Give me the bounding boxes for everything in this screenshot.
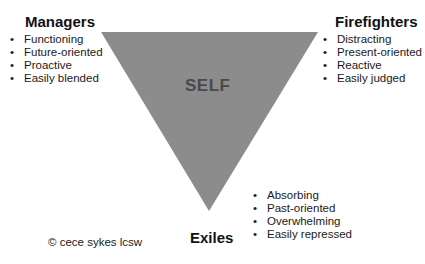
list-item: •Overwhelming xyxy=(253,215,352,228)
list-item: •Future-oriented xyxy=(10,46,103,59)
bullet-icon: • xyxy=(10,72,24,85)
bullet-icon: • xyxy=(323,46,337,59)
bullet-icon: • xyxy=(10,33,24,46)
copyright-text: © cece sykes lcsw xyxy=(48,236,142,248)
exiles-list: •Absorbing •Past-oriented •Overwhelming … xyxy=(253,189,352,241)
list-item: •Distracting xyxy=(323,33,422,46)
bullet-icon: • xyxy=(253,202,267,215)
bullet-icon: • xyxy=(323,59,337,72)
list-item: •Present-oriented xyxy=(323,46,422,59)
managers-list: •Functioning •Future-oriented •Proactive… xyxy=(10,33,103,85)
exiles-title: Exiles xyxy=(190,229,233,246)
list-item: •Easily judged xyxy=(323,72,422,85)
managers-title: Managers xyxy=(25,13,103,30)
list-item: •Easily repressed xyxy=(253,228,352,241)
bullet-icon: • xyxy=(10,46,24,59)
list-item: •Reactive xyxy=(323,59,422,72)
list-item: •Easily blended xyxy=(10,72,103,85)
managers-group: Managers •Functioning •Future-oriented •… xyxy=(10,13,103,85)
firefighters-list: •Distracting •Present-oriented •Reactive… xyxy=(323,33,422,85)
bullet-icon: • xyxy=(10,59,24,72)
list-item: •Proactive xyxy=(10,59,103,72)
list-item: •Past-oriented xyxy=(253,202,352,215)
firefighters-group: Firefighters •Distracting •Present-orien… xyxy=(323,13,422,85)
self-label: SELF xyxy=(185,76,230,96)
list-item: •Absorbing xyxy=(253,189,352,202)
bullet-icon: • xyxy=(323,72,337,85)
bullet-icon: • xyxy=(253,189,267,202)
bullet-icon: • xyxy=(323,33,337,46)
firefighters-title: Firefighters xyxy=(335,13,422,30)
bullet-icon: • xyxy=(253,228,267,241)
bullet-icon: • xyxy=(253,215,267,228)
list-item: •Functioning xyxy=(10,33,103,46)
